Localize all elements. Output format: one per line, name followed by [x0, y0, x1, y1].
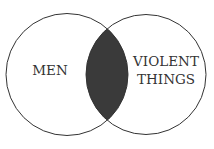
label-men: MEN	[32, 62, 68, 78]
label-violent: VIOLENT	[132, 53, 199, 69]
venn-diagram: MEN VIOLENT THINGS	[0, 0, 214, 149]
label-things: THINGS	[137, 71, 195, 87]
